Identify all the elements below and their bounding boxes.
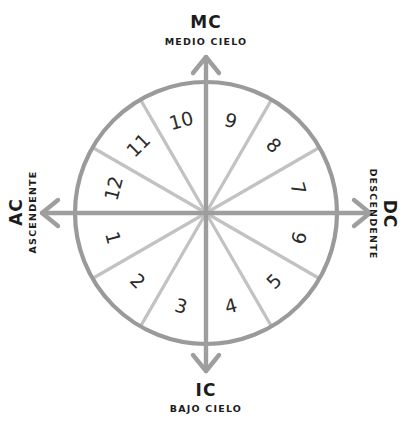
- mc-abbr: MC: [190, 12, 221, 32]
- axis-label-dc: DC DESCENDENTE: [368, 168, 400, 259]
- house-number-3: 3: [172, 294, 189, 318]
- dc-name: DESCENDENTE: [368, 168, 379, 259]
- cardinal-axes: [42, 57, 370, 371]
- axis-label-ac: AC ASCENDENTE: [6, 171, 38, 254]
- house-divider-60: [206, 100, 272, 213]
- house-number-10: 10: [167, 107, 196, 135]
- house-number-1: 1: [101, 229, 125, 246]
- house-divider-210: [93, 213, 206, 279]
- ic-name: BAJO CIELO: [170, 403, 242, 414]
- house-number-8: 8: [262, 133, 286, 157]
- axis-label-mc: MC MEDIO CIELO: [165, 12, 248, 47]
- mc-name: MEDIO CIELO: [165, 36, 248, 47]
- ac-abbr: AC: [6, 198, 26, 226]
- house-divider-300: [206, 213, 272, 326]
- dc-abbr: DC: [380, 200, 400, 229]
- house-number-2: 2: [126, 269, 150, 293]
- house-number-5: 5: [262, 269, 286, 293]
- wheel-svg: 10 9 11 8 12 7 1 6 2 5 3 4 MC: [0, 0, 403, 425]
- ic-abbr: IC: [196, 380, 217, 400]
- house-number-9: 9: [222, 108, 239, 132]
- house-number-6: 6: [287, 229, 311, 246]
- house-number-12: 12: [100, 174, 128, 203]
- house-number-4: 4: [222, 294, 239, 318]
- ac-name: ASCENDENTE: [27, 171, 38, 254]
- astrology-house-wheel: 10 9 11 8 12 7 1 6 2 5 3 4 MC: [0, 0, 403, 425]
- house-number-11: 11: [122, 129, 155, 162]
- house-number-7: 7: [287, 180, 311, 197]
- axis-label-ic: IC BAJO CIELO: [170, 380, 242, 414]
